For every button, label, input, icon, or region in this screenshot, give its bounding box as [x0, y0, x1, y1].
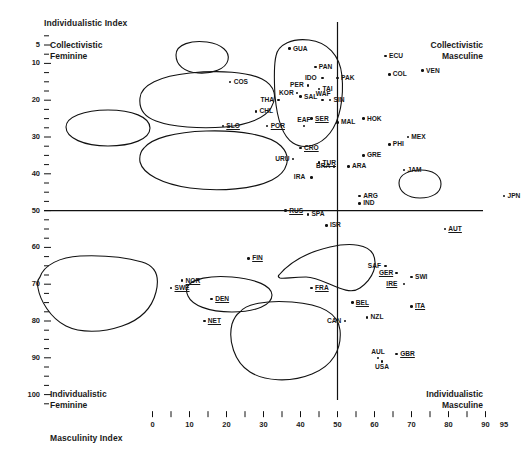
data-point-dot	[203, 320, 206, 323]
data-point-label: GRE	[367, 151, 381, 158]
data-point-dot	[388, 73, 391, 76]
data-point-label: CHL	[260, 107, 274, 114]
corner-bottom-left-line1: Individualistic	[50, 389, 107, 400]
y-tick-label: 100	[0, 390, 40, 399]
data-point-label: PAK	[341, 74, 354, 81]
cluster-anglo-cluster	[231, 301, 340, 379]
data-point-label: SLO	[226, 122, 240, 129]
data-point-dot	[336, 121, 339, 124]
data-point-label: ITA	[415, 302, 425, 309]
data-point-label: PER	[290, 81, 304, 88]
data-point-dot	[307, 84, 310, 87]
x-tick-label: 0	[133, 420, 173, 429]
x-tick-label: 95	[484, 420, 524, 429]
data-point-label: ARG	[363, 192, 378, 199]
y-tick-label: 60	[0, 242, 40, 251]
cluster-japan-cluster	[399, 170, 441, 198]
data-point-label: FIN	[252, 254, 263, 261]
data-point-label: JAM	[408, 166, 422, 173]
data-point-label: JPN	[508, 192, 521, 199]
x-tick-label: 10	[170, 420, 210, 429]
data-point-dot	[503, 195, 506, 198]
y-tick-label: 30	[0, 132, 40, 141]
data-point-dot	[381, 360, 384, 363]
y-axis-title: Individualistic Index	[44, 18, 127, 28]
cluster-latin-balkan-cluster	[140, 131, 287, 190]
data-point-label: KOR	[279, 89, 294, 96]
corner-bottom-left-line2: Feminine	[50, 400, 107, 411]
data-point-dot	[284, 209, 287, 212]
cluster-asia-cluster	[140, 72, 275, 128]
y-tick-label: 20	[0, 95, 40, 104]
data-point-label: IRA	[294, 173, 305, 180]
data-point-label: BRA	[316, 162, 330, 169]
data-point-dot	[351, 301, 354, 304]
data-point-dot	[314, 66, 317, 69]
data-point-dot	[347, 165, 350, 168]
data-point-label: FRA	[315, 284, 329, 291]
data-point-dot	[307, 213, 310, 216]
data-point-label: CRO	[304, 144, 319, 151]
y-tick-label: 70	[0, 279, 40, 288]
corner-label-top-right: Collectivistic Masculine	[431, 40, 483, 62]
cluster-outlines	[38, 40, 441, 380]
data-point-dot	[384, 265, 387, 268]
data-point-dot	[299, 95, 302, 98]
data-point-label: USA	[375, 363, 389, 370]
x-tick-label: 30	[244, 420, 284, 429]
x-tick-label: 70	[392, 420, 432, 429]
data-point-dot	[310, 176, 313, 179]
data-point-label: WAF	[316, 90, 331, 97]
cluster-southern-europe-latin-cluster	[66, 110, 150, 146]
x-tick-label: 20	[207, 420, 247, 429]
data-point-dot	[333, 165, 336, 168]
data-point-label: RUS	[289, 207, 303, 214]
data-point-dot	[325, 224, 328, 227]
data-point-label: AUL	[371, 348, 385, 355]
data-point-label: COS	[234, 78, 248, 85]
corner-top-right-line1: Collectivistic	[431, 40, 483, 51]
data-point-dot	[362, 154, 365, 157]
x-axis-ticks	[153, 411, 490, 417]
data-point-label: HOK	[367, 115, 382, 122]
data-point-label: DEN	[215, 295, 229, 302]
data-point-label: IND	[363, 199, 374, 206]
corner-top-left-line1: Collectivistic	[50, 40, 102, 51]
data-point-dot	[358, 195, 361, 198]
data-point-dot	[362, 117, 365, 120]
data-point-label: AUT	[448, 225, 462, 232]
data-point-label: URU	[275, 155, 289, 162]
cluster-central-america-cluster	[176, 42, 228, 74]
data-point-label: SAF	[368, 262, 381, 269]
data-point-label: SPA	[311, 210, 324, 217]
data-point-label: SER	[315, 115, 329, 122]
corner-label-bottom-left: Individualistic Feminine	[50, 389, 107, 411]
x-tick-label: 60	[355, 420, 395, 429]
data-point-label: COL	[393, 70, 407, 77]
data-point-label: SIN	[334, 96, 345, 103]
y-tick-label: 5	[0, 40, 40, 49]
x-tick-label: 40	[281, 420, 321, 429]
corner-label-bottom-right: Individualistic Masculine	[426, 389, 483, 411]
data-point-label: ECU	[389, 52, 403, 59]
data-point-label: NZL	[371, 313, 384, 320]
data-point-dot	[421, 69, 424, 72]
x-axis-title: Masculinity Index	[50, 433, 123, 443]
data-point-label: PHI	[393, 140, 404, 147]
data-point-dot	[310, 287, 313, 290]
data-point-label: MEX	[411, 133, 425, 140]
data-point-label: ARA	[352, 162, 366, 169]
data-point-dot	[288, 47, 291, 50]
data-point-label: EAF	[297, 116, 310, 123]
data-point-label: GER	[379, 269, 393, 276]
data-point-dot	[310, 117, 313, 120]
corner-bottom-right-line2: Masculine	[426, 400, 483, 411]
data-point-label: GUA	[293, 45, 308, 52]
data-point-label: ISR	[330, 221, 341, 228]
data-point-label: GBR	[400, 350, 415, 357]
corner-top-left-line2: Feminine	[50, 51, 102, 62]
y-tick-label: 40	[0, 169, 40, 178]
data-point-label: BEL	[356, 299, 369, 306]
data-point-dot	[358, 202, 361, 205]
